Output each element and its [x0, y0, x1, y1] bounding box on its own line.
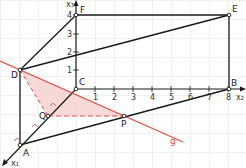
- axis-label-x2: x₂: [236, 93, 244, 102]
- x2-tick-3: 3: [131, 93, 136, 102]
- x3-tick-4: 4: [67, 11, 72, 20]
- label-Q: Q: [39, 111, 46, 121]
- axis-label-x3: x₃: [66, 0, 74, 9]
- x2-tick-8: 8: [226, 93, 231, 102]
- x3-tick-3: 3: [67, 30, 72, 39]
- x2-tick-6: 6: [188, 93, 193, 102]
- diagram-svg: F E B C D A Q P g x₃ x₂ x₁ 1 2 3 4 1 2 3…: [0, 0, 246, 168]
- x3-tick-1: 1: [67, 66, 72, 75]
- axis-label-x1: x₁: [11, 159, 19, 168]
- diagram-canvas: F E B C D A Q P g x₃ x₂ x₁ 1 2 3 4 1 2 3…: [0, 0, 246, 168]
- x2-tick-7: 7: [207, 93, 212, 102]
- x3-tick-2: 2: [67, 48, 72, 57]
- label-E: E: [232, 4, 238, 14]
- label-g: g: [170, 136, 176, 146]
- label-A: A: [23, 148, 30, 158]
- label-B: B: [231, 78, 237, 88]
- label-P: P: [121, 119, 127, 129]
- x2-tick-1: 1: [93, 93, 98, 102]
- x2-tick-4: 4: [150, 93, 155, 102]
- x2-tick-2: 2: [112, 93, 117, 102]
- label-D: D: [11, 70, 18, 80]
- label-F: F: [80, 5, 85, 15]
- x2-tick-5: 5: [169, 93, 174, 102]
- label-C: C: [79, 77, 85, 87]
